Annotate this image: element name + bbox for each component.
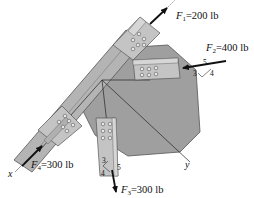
force-arrow-f1 <box>150 0 175 24</box>
x-axis-label: x <box>8 169 12 179</box>
slope-f2-hyp: 5 <box>203 59 207 67</box>
slope-f3-a: 3 <box>102 157 106 165</box>
slope-f2-b: 4 <box>210 70 214 78</box>
slope-f3-hyp: 5 <box>117 164 121 172</box>
slope-f3-b: 4 <box>101 170 105 178</box>
diagram-canvas: F1=200 lb F2=400 lb F3=300 lb F4=300 lb … <box>0 0 254 198</box>
force-label-f4: F4=300 lb <box>31 160 73 172</box>
x-axis-line <box>15 163 24 172</box>
force-value: =200 lb <box>186 10 218 21</box>
slope-f2-a: 3 <box>193 70 197 78</box>
y-axis-label: y <box>185 160 189 170</box>
force-label-f3: F3=300 lb <box>121 185 163 197</box>
member-f2 <box>133 58 180 80</box>
force-label-f1: F1=200 lb <box>176 11 218 23</box>
member-f3 <box>96 118 118 176</box>
force-value: =300 lb <box>131 184 163 195</box>
force-value: =400 lb <box>216 42 248 53</box>
force-value: =300 lb <box>41 159 73 170</box>
force-label-f2: F2=400 lb <box>206 43 248 55</box>
